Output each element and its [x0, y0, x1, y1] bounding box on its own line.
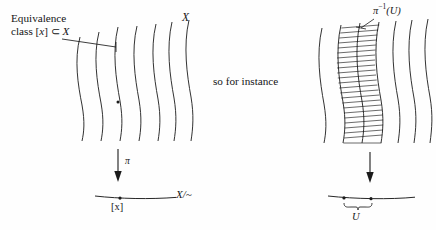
- left-fiber-curves: [77, 20, 193, 141]
- fiber-curve-6: [169, 22, 176, 141]
- right-fiber-curves: [319, 19, 432, 143]
- connector-text: so for instance: [213, 75, 278, 88]
- projection-arrow-right: [366, 152, 373, 183]
- annotation-space-X: X: [63, 25, 70, 37]
- fiber-curve-7: [186, 20, 193, 141]
- r-fiber-curve-6: [409, 20, 416, 143]
- equivalence-class-annotation: Equivalence class [x] ⊂ X: [11, 12, 69, 38]
- annotation-line-2: class [x] ⊂ X: [11, 25, 69, 38]
- r-fiber-curve-1: [319, 28, 326, 143]
- quotient-point-label: [x]: [111, 201, 123, 213]
- preimage-label: π−1(U): [373, 3, 401, 17]
- r-fiber-curve-5: [393, 21, 400, 143]
- preimage-argument: (U): [386, 5, 401, 16]
- r-fiber-curve-7: [425, 19, 432, 143]
- projection-arrow-left: [114, 149, 121, 182]
- fiber-curve-2: [96, 32, 103, 141]
- quotient-line-left: [95, 196, 176, 200]
- open-set-left-endpoint: [342, 196, 345, 199]
- equivalence-class-leader: [62, 39, 116, 52]
- preimage-label-leader: [356, 19, 374, 29]
- quotient-space-label: X/~: [176, 188, 192, 201]
- open-set-right-endpoint: [369, 197, 372, 200]
- projection-arrow-label-pi: π: [125, 156, 130, 167]
- fiber-curve-5: [153, 24, 160, 141]
- open-set-label-U: U: [352, 211, 360, 223]
- annotation-line-1: Equivalence: [11, 12, 66, 24]
- space-label-X: X: [182, 11, 189, 25]
- open-set-brace: [344, 203, 372, 210]
- fiber-curve-1: [77, 37, 84, 141]
- fiber-marked-point: [117, 101, 120, 104]
- fiber-curve-4: [134, 26, 141, 141]
- annotation-variable-x: x: [39, 25, 44, 37]
- quotient-map-figure: Equivalence class [x] ⊂ X X so for insta…: [0, 0, 436, 230]
- quotient-line-right: [328, 196, 415, 200]
